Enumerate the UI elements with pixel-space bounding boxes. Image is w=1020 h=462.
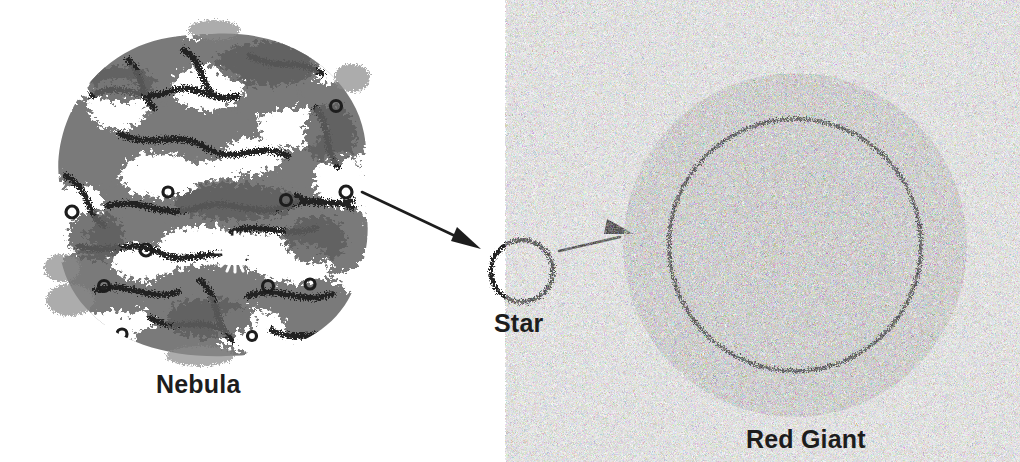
nebula-cloud-icon: [44, 20, 376, 370]
protostar-burst-icon: [215, 232, 255, 272]
stellar-evolution-figure: Nebula Star Red Giant: [0, 0, 1020, 462]
label-star: Star: [494, 309, 543, 338]
label-nebula: Nebula: [156, 370, 241, 399]
arrow-nebula-to-star: [362, 192, 481, 249]
label-red-giant: Red Giant: [746, 425, 866, 454]
diagram-canvas: [0, 0, 1020, 462]
star-ring-icon: [491, 240, 553, 302]
red-giant-ring-icon: [616, 77, 984, 413]
arrow-star-to-red-giant: [559, 219, 634, 251]
